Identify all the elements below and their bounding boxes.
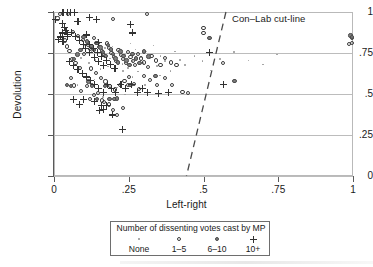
y-tick bbox=[48, 135, 53, 136]
con-lab-cut-line bbox=[54, 12, 353, 176]
filled-circle-marker bbox=[197, 234, 237, 244]
y-tick bbox=[48, 53, 53, 54]
x-tick-label: .25 bbox=[109, 185, 149, 195]
gridline bbox=[54, 176, 353, 177]
tiny-dot-marker bbox=[119, 234, 159, 244]
x-tick-label: .75 bbox=[258, 185, 298, 195]
legend-open-circle-glyph bbox=[177, 237, 181, 241]
legend-entry: 10+ bbox=[233, 234, 273, 255]
legend-label: None bbox=[119, 244, 159, 255]
con-lab-cut-line-label: Con–Lab cut-line bbox=[232, 13, 305, 24]
plus-marker bbox=[233, 234, 273, 244]
legend-plus-glyph bbox=[250, 236, 257, 243]
x-tick bbox=[129, 177, 130, 182]
x-tick bbox=[54, 177, 55, 182]
y-tick bbox=[48, 12, 53, 13]
plot-area bbox=[54, 12, 353, 176]
x-tick-label: 0 bbox=[34, 185, 74, 195]
legend-title: Number of dissenting votes cast by MP bbox=[111, 223, 271, 233]
legend-box: Number of dissenting votes cast by MP No… bbox=[110, 221, 270, 256]
legend-tiny-dot-glyph bbox=[138, 238, 140, 240]
x-axis-title: Left-right bbox=[0, 199, 373, 210]
open-circle-marker bbox=[159, 234, 199, 244]
caption-artifact bbox=[120, 261, 373, 264]
legend-label: 6–10 bbox=[197, 244, 237, 255]
legend-entry: None bbox=[119, 234, 159, 255]
x-tick bbox=[278, 177, 279, 182]
x-tick bbox=[204, 177, 205, 182]
legend-entry: 6–10 bbox=[197, 234, 237, 255]
legend-label: 1–5 bbox=[159, 244, 199, 255]
x-tick bbox=[353, 177, 354, 182]
y-axis-title: Devolution bbox=[12, 35, 23, 155]
y-tick bbox=[48, 94, 53, 95]
legend-label: 10+ bbox=[233, 244, 273, 255]
y-tick bbox=[48, 176, 53, 177]
scatter-plot-figure: Devolution 0.25.5.751 0.25.5.751 Con–Lab… bbox=[0, 0, 373, 267]
legend-entry: 1–5 bbox=[159, 234, 199, 255]
x-tick-label: 1 bbox=[333, 185, 373, 195]
x-tick-label: .5 bbox=[184, 185, 224, 195]
cut-line-stroke bbox=[186, 12, 225, 176]
legend-filled-circle-glyph bbox=[215, 237, 219, 241]
